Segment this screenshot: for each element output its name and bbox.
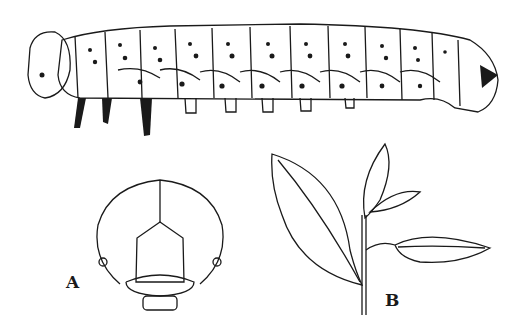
panel-label-a: A [66, 272, 79, 292]
panel-label-b: B [385, 290, 399, 310]
scientific-illustration: A B [0, 0, 519, 327]
